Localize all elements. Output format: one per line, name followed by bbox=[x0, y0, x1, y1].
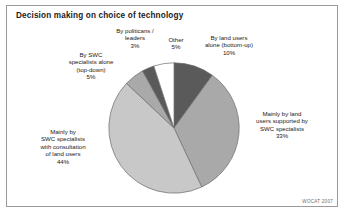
source-credit: WOCAT 2007 bbox=[302, 199, 333, 204]
pie-label-swc-specialists-alone: By SWC specialists alone (top-down) 5% bbox=[52, 51, 130, 81]
pie-label-swc-with-consultation: Mainly by SWC specialists with consultat… bbox=[19, 128, 107, 165]
pie-label-other: Other 5% bbox=[163, 36, 189, 51]
pie-label-land-users-supported: Mainly by land users supported by SWC sp… bbox=[240, 110, 324, 140]
pie-chart bbox=[108, 62, 240, 194]
pie-slice-group bbox=[109, 63, 239, 193]
pie-label-land-users-alone: By land users alone (bottom-up) 10% bbox=[189, 34, 269, 56]
page-title: Decision making on choice of technology bbox=[16, 11, 183, 20]
pie-label-politicians: By politicans / leaders 3% bbox=[108, 27, 162, 49]
pie-chart-svg bbox=[108, 62, 240, 194]
figure-container: Decision making on choice of technology … bbox=[0, 0, 344, 214]
